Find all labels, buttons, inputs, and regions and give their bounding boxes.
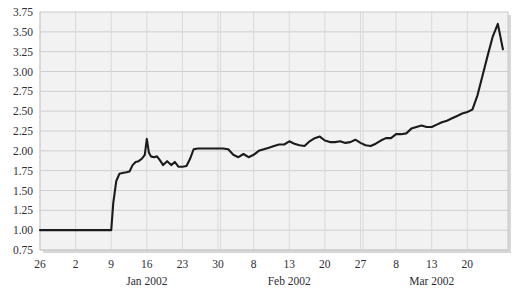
x-axis-tick-label: 26 — [34, 258, 46, 270]
x-axis-tick-label: 8 — [251, 258, 257, 270]
x-axis-tick-label: 23 — [177, 258, 189, 270]
y-axis-tick-label: 3.25 — [13, 46, 33, 58]
x-axis-tick-label: 16 — [141, 258, 153, 270]
y-axis-tick-label: 1.75 — [13, 165, 33, 177]
x-axis-month-label: Jan 2002 — [126, 275, 167, 287]
x-axis-tick-label: 9 — [108, 258, 114, 270]
x-axis-tick-label: 13 — [426, 258, 438, 270]
x-axis-month-labels: Jan 2002Feb 2002Mar 2002 — [126, 275, 454, 287]
x-axis-tick-label: 20 — [462, 258, 474, 270]
x-axis-tick-label: 30 — [212, 258, 224, 270]
y-axis-tick-label: 1.50 — [13, 185, 33, 197]
y-axis-tick-label: 2.50 — [13, 105, 33, 117]
line-chart: 3.753.503.253.002.752.502.252.001.751.50… — [0, 0, 519, 293]
y-axis-tick-label: 2.00 — [13, 145, 33, 157]
x-axis-tick-labels: 2629162330813202781320 — [34, 258, 473, 270]
y-axis-tick-label: 3.00 — [13, 66, 33, 78]
x-axis-tick-label: 27 — [355, 258, 367, 270]
y-axis-tick-label: 1.00 — [13, 224, 33, 236]
x-axis-tick-label: 2 — [73, 258, 79, 270]
x-axis-tick-label: 20 — [319, 258, 331, 270]
x-axis-tick-label: 13 — [284, 258, 296, 270]
x-axis-tick-label: 8 — [393, 258, 399, 270]
chart-canvas: 3.753.503.253.002.752.502.252.001.751.50… — [0, 0, 519, 293]
y-axis-tick-label: 2.75 — [13, 85, 33, 97]
x-axis-month-label: Feb 2002 — [268, 275, 311, 287]
y-axis-tick-label: 3.75 — [13, 6, 33, 18]
y-axis-tick-label: 1.25 — [13, 204, 33, 216]
y-axis-tick-label: 0.75 — [13, 244, 33, 256]
y-axis-tick-label: 3.50 — [13, 26, 33, 38]
x-axis-month-label: Mar 2002 — [409, 275, 454, 287]
y-axis-tick-label: 2.25 — [13, 125, 33, 137]
y-axis-tick-labels: 3.753.503.253.002.752.502.252.001.751.50… — [13, 6, 33, 256]
